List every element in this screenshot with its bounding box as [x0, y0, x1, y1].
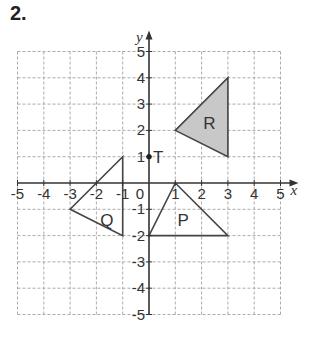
y-tick-label: 4 [137, 69, 145, 86]
y-tick-label: 3 [137, 95, 145, 112]
y-tick-label: 2 [137, 121, 145, 138]
y-tick-label: -4 [132, 279, 145, 296]
y-tick-label: 5 [137, 43, 145, 60]
shape-label-p: P [178, 211, 189, 230]
shape-label-r: R [203, 114, 215, 133]
y-tick-label: -2 [132, 227, 145, 244]
y-tick-label: -3 [132, 253, 145, 270]
x-tick-label: -4 [37, 185, 50, 202]
x-axis-label: x [290, 182, 298, 198]
x-tick-label: -3 [63, 185, 76, 202]
x-tick-label: -5 [11, 185, 24, 202]
y-axis-arrow-icon [146, 31, 153, 40]
point-t-dot-icon [146, 154, 151, 159]
y-tick-label: 1 [137, 148, 145, 165]
x-tick-label: 3 [224, 185, 232, 202]
origin-label: 0 [136, 185, 144, 202]
x-tick-label: 5 [276, 185, 284, 202]
shape-label-q: Q [100, 211, 113, 230]
triangle-r [175, 78, 228, 157]
coordinate-grid: -5-4-3-2-11234554321-1-2-3-4-50xyRQPT [0, 0, 309, 344]
x-tick-label: 2 [197, 185, 205, 202]
y-axis-label: y [134, 29, 143, 45]
x-tick-label: 1 [171, 185, 179, 202]
y-tick-label: -1 [132, 200, 145, 217]
point-label-t: T [153, 148, 163, 167]
x-tick-label: 4 [250, 185, 258, 202]
x-tick-label: -1 [116, 185, 129, 202]
x-tick-label: -2 [90, 185, 103, 202]
y-tick-label: -5 [132, 306, 145, 323]
